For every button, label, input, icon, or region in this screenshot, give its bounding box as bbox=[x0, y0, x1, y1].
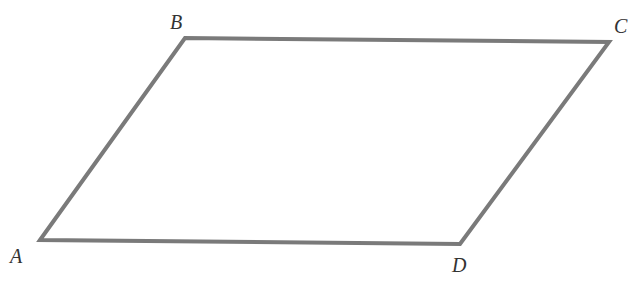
vertex-label-b: B bbox=[170, 12, 182, 32]
parallelogram-abcd bbox=[40, 38, 609, 244]
parallelogram-figure bbox=[0, 0, 635, 281]
vertex-label-d: D bbox=[452, 255, 466, 275]
vertex-label-a: A bbox=[10, 246, 22, 266]
vertex-label-c: C bbox=[614, 16, 627, 36]
